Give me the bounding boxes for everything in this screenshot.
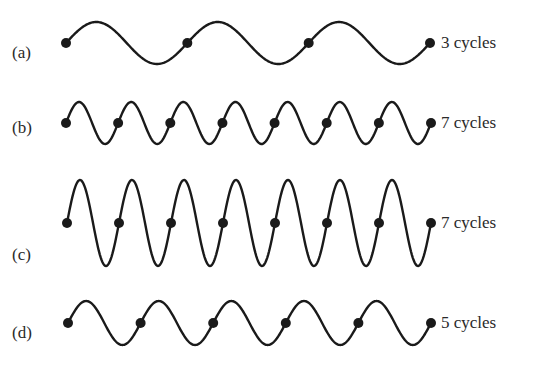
wave-c [62,180,436,266]
cycle-dot-d [136,318,146,328]
cycle-dot-b [426,118,436,128]
wave-d-letter: (d) [12,323,32,343]
cycle-dot-d [63,318,73,328]
cycle-dot-a [304,38,314,48]
wave-a-letter: (a) [12,43,31,63]
cycle-dot-d [426,318,436,328]
wave-d-cycles-label: 5 cycles [441,313,496,333]
cycle-dot-b [270,118,280,128]
cycle-dot-b [113,118,123,128]
wave-b-letter: (b) [12,118,32,138]
wave-b [61,102,436,144]
sine-wave-d [68,301,431,345]
sine-wave-a [66,22,430,64]
cycle-dot-c [218,218,228,228]
cycle-dot-a [425,38,435,48]
wave-b-cycles-label: 7 cycles [441,113,496,133]
wave-d [63,301,436,345]
cycle-dot-c [62,218,72,228]
cycle-dot-a [182,38,192,48]
cycle-dot-c [322,218,332,228]
wave-a-cycles-label: 3 cycles [441,33,496,53]
wave-c-letter: (c) [12,245,31,265]
cycle-dot-b [374,118,384,128]
cycle-dot-c [374,218,384,228]
cycle-dot-b [217,118,227,128]
cycle-dot-d [353,318,363,328]
cycle-dot-b [322,118,332,128]
cycle-dot-c [114,218,124,228]
wave-a [61,22,435,64]
cycle-dot-d [281,318,291,328]
cycle-dot-c [270,218,280,228]
cycle-dot-a [61,38,71,48]
cycle-dot-b [61,118,71,128]
cycle-dot-b [165,118,175,128]
wave-c-cycles-label: 7 cycles [441,213,496,233]
cycle-dot-c [426,218,436,228]
cycle-dot-c [166,218,176,228]
cycle-dot-d [208,318,218,328]
